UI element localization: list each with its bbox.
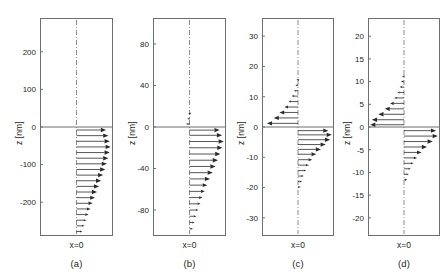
panel-b-x-axis-label: x=0 <box>170 240 210 250</box>
y-tick-label: -15 <box>352 191 364 200</box>
quiver-arrow <box>77 184 100 188</box>
quiver-arrow <box>385 107 404 111</box>
quiver-arrow <box>190 203 201 205</box>
quiver-arrow <box>190 215 197 217</box>
quiver-arrow <box>190 139 224 143</box>
quiver-arrow <box>400 86 404 88</box>
y-tick-label: -200 <box>20 198 37 207</box>
quiver-arrow <box>77 162 108 166</box>
panel-a: 2001000-100-200z [nm]x=0(a) <box>0 0 113 277</box>
y-tick-label: -20 <box>246 183 258 192</box>
y-tick-label: -10 <box>352 168 364 177</box>
quiver-arrow <box>372 118 404 122</box>
quiver-arrow <box>77 230 83 232</box>
panel-d-y-axis-label: z [nm] <box>342 121 352 145</box>
quiver-arrow <box>284 106 298 109</box>
quiver-arrow <box>190 177 211 181</box>
quiver-arrow <box>77 179 102 183</box>
y-tick-label: 80 <box>140 40 149 49</box>
quiver-arrow <box>190 228 193 230</box>
quiver-arrow <box>298 147 321 151</box>
quiver-arrow <box>77 133 109 137</box>
quiver-arrow <box>190 133 223 137</box>
y-tick-label: -80 <box>137 206 149 215</box>
y-tick-label: 5 <box>360 100 365 109</box>
quiver-arrow <box>404 128 436 132</box>
y-tick-label: 0 <box>254 123 259 132</box>
quiver-arrow <box>370 123 404 127</box>
quiver-arrow <box>77 190 98 194</box>
quiver-figure: 2001000-100-200z [nm]x=0(a)80400-40-80z … <box>0 0 445 277</box>
quiver-arrow <box>394 97 404 99</box>
panel-d: 20151050-5-10-15-20z [nm]x=0(d) <box>332 0 445 277</box>
quiver-arrow <box>390 102 404 105</box>
quiver-arrow <box>404 156 417 159</box>
quiver-arrow <box>190 164 216 168</box>
quiver-arrow <box>190 183 208 187</box>
y-tick-label: -20 <box>352 214 364 223</box>
y-tick-label: -100 <box>20 160 37 169</box>
quiver-arrow <box>298 133 332 137</box>
quiver-arrow <box>404 139 433 143</box>
panel-c-y-axis-label: z [nm] <box>236 121 246 145</box>
quiver-arrow <box>77 202 93 206</box>
quiver-arrow <box>190 221 195 223</box>
quiver-arrow <box>77 225 85 227</box>
quiver-arrow <box>298 186 301 188</box>
quiver-arrow <box>404 151 422 155</box>
quiver-arrow <box>190 190 205 193</box>
quiver-arrow <box>186 123 189 125</box>
y-tick-label: 200 <box>23 48 37 57</box>
panel-a-y-axis-label: z [nm] <box>14 121 24 145</box>
quiver-arrow <box>289 101 298 103</box>
y-tick-label: 0 <box>360 123 365 132</box>
y-tick-label: 10 <box>355 77 364 86</box>
quiver-arrow <box>298 180 302 182</box>
quiver-arrow <box>77 150 110 154</box>
quiver-arrow <box>378 112 404 116</box>
y-tick-label: -10 <box>246 153 258 162</box>
quiver-arrow <box>294 90 298 92</box>
quiver-arrow <box>298 175 304 177</box>
panel-b-caption: (b) <box>170 258 210 269</box>
quiver-arrow <box>190 152 221 156</box>
quiver-arrow <box>298 158 312 161</box>
quiver-arrow <box>279 110 298 114</box>
quiver-arrow <box>298 170 306 172</box>
quiver-arrow <box>267 121 298 125</box>
quiver-arrow <box>298 164 309 166</box>
quiver-arrow <box>77 173 104 177</box>
quiver-arrow <box>298 138 330 142</box>
quiver-arrow <box>274 116 298 120</box>
quiver-arrow <box>298 142 326 146</box>
y-tick-label: 10 <box>249 93 258 102</box>
y-tick-label: 100 <box>23 85 37 94</box>
panel-b-y-axis-label: z [nm] <box>127 121 137 145</box>
y-tick-label: 40 <box>140 81 149 90</box>
quiver-arrow <box>77 156 109 160</box>
y-tick-label: 15 <box>355 55 364 64</box>
quiver-arrow <box>292 95 298 97</box>
y-tick-label: 20 <box>249 62 258 71</box>
y-tick-label: -5 <box>357 146 365 155</box>
quiver-arrow <box>77 145 111 149</box>
quiver-arrow <box>190 146 223 150</box>
quiver-arrow <box>402 75 404 77</box>
quiver-arrow <box>404 162 413 164</box>
y-tick-label: 20 <box>355 32 364 41</box>
quiver-arrow <box>404 145 427 149</box>
quiver-arrow <box>77 167 106 171</box>
panel-d-x-axis-label: x=0 <box>384 240 424 250</box>
panel-b: 80400-40-80z [nm]x=0(b) <box>113 0 226 277</box>
y-tick-label: 0 <box>32 123 37 132</box>
quiver-arrow <box>298 128 328 132</box>
y-tick-label: -40 <box>137 164 149 173</box>
panel-c: 3020100-10-20-30z [nm]x=0(c) <box>226 0 339 277</box>
quiver-arrow <box>295 84 298 86</box>
quiver-arrow <box>190 158 218 162</box>
quiver-arrow <box>187 118 189 120</box>
quiver-arrow <box>190 128 220 132</box>
quiver-arrow <box>298 152 316 156</box>
quiver-arrow <box>77 219 87 221</box>
y-tick-label: -30 <box>246 214 258 223</box>
